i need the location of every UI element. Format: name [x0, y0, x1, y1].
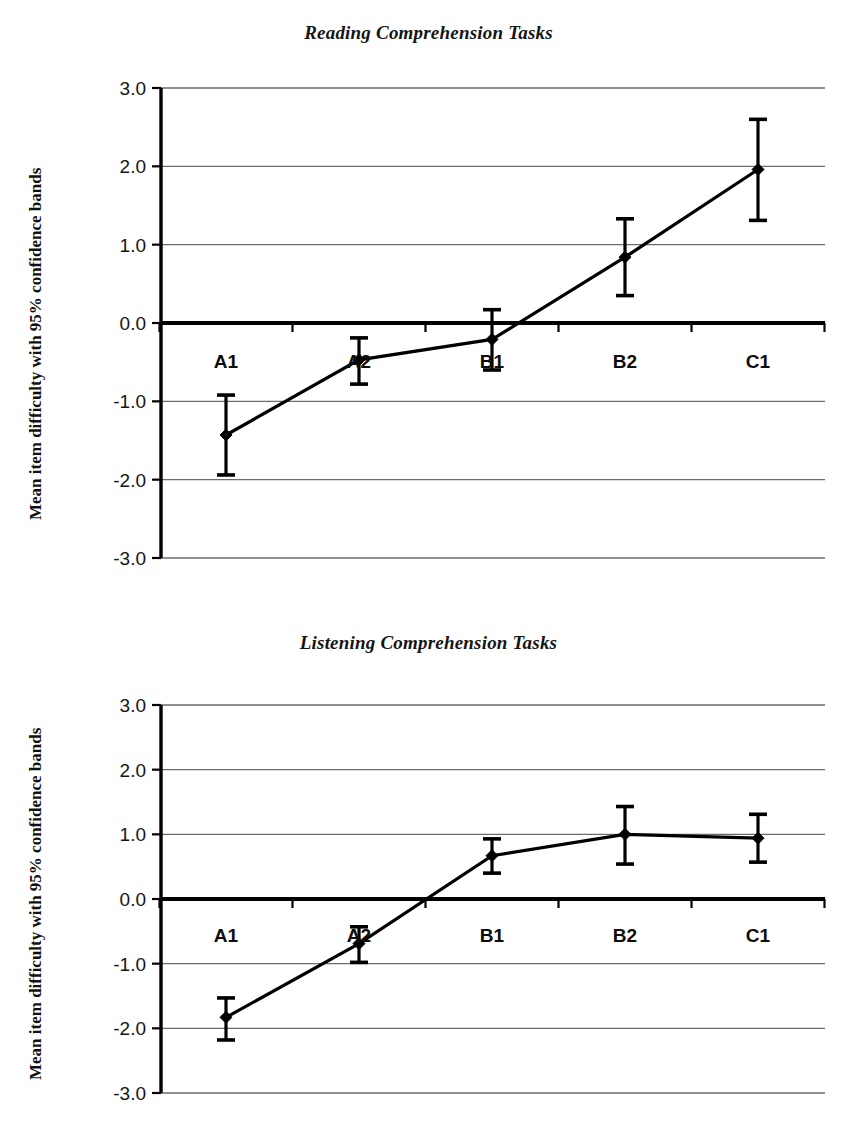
- x-category-label-C1: C1: [746, 925, 771, 946]
- x-category-label-A1: A1: [214, 925, 239, 946]
- x-category-label-A2: A2: [347, 925, 371, 946]
- x-category-label-C1: C1: [746, 351, 771, 372]
- y-tick-label: 1.0: [120, 824, 146, 845]
- data-point-marker: [619, 828, 631, 840]
- y-tick-label: -2.0: [113, 470, 146, 491]
- y-tick-label: 0.0: [120, 889, 146, 910]
- y-tick-label: -1.0: [113, 954, 146, 975]
- x-category-label-A2: A2: [347, 351, 371, 372]
- y-tick-label: -3.0: [113, 1083, 146, 1104]
- chart-panel-reading: Reading Comprehension Tasks Mean item di…: [0, 0, 857, 580]
- y-tick-label: -2.0: [113, 1018, 146, 1039]
- y-tick-label: 2.0: [120, 760, 146, 781]
- data-point-group: [749, 814, 767, 862]
- x-category-label-A1: A1: [214, 351, 239, 372]
- y-tick-label: 3.0: [120, 695, 146, 716]
- x-category-label-B2: B2: [613, 925, 637, 946]
- data-point-marker: [220, 1011, 232, 1023]
- x-category-label-B1: B1: [480, 925, 505, 946]
- data-point-group: [483, 839, 501, 873]
- plot-area-listening: 3.02.01.00.0-1.0-2.0-3.0A1A2B1B2C1: [0, 580, 857, 1132]
- y-tick-label: -3.0: [113, 548, 146, 569]
- data-point-group: [217, 395, 235, 475]
- series-line: [226, 169, 758, 435]
- data-point-group: [749, 119, 767, 220]
- x-category-label-B1: B1: [480, 351, 505, 372]
- y-tick-label: -1.0: [113, 391, 146, 412]
- y-tick-label: 0.0: [120, 313, 146, 334]
- chart-panel-listening: Listening Comprehension Tasks Mean item …: [0, 580, 857, 1132]
- data-point-group: [217, 998, 235, 1040]
- x-category-label-B2: B2: [613, 351, 637, 372]
- y-tick-label: 1.0: [120, 235, 146, 256]
- plot-area-reading: 3.02.01.00.0-1.0-2.0-3.0A1A2B1B2C1: [0, 0, 857, 580]
- data-point-group: [616, 219, 634, 296]
- y-tick-label: 3.0: [120, 78, 146, 99]
- y-tick-label: 2.0: [120, 156, 146, 177]
